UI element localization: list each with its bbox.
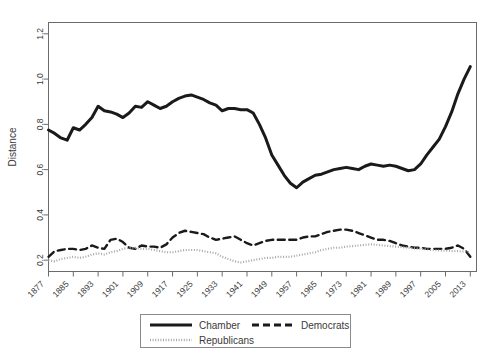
chart-legend: Chamber Democrats Republicans [141,315,351,348]
legend-label-chamber: Chamber [199,320,241,331]
y-tick-label: 0.6 [35,163,45,175]
legend-label-republicans: Republicans [199,335,254,346]
y-tick-label: 1.0 [35,73,45,85]
y-tick-label: 0.2 [35,254,45,266]
line-chart-figure: Distance 0.20.40.60.81.01.2 187718851893… [0,0,491,357]
legend-label-democrats: Democrats [301,320,349,331]
y-tick-label: 1.2 [35,28,45,40]
y-tick-label: 0.8 [35,118,45,130]
y-tick-label: 0.4 [35,209,45,221]
y-axis-title: Distance [7,127,18,166]
figure-background [0,0,491,357]
